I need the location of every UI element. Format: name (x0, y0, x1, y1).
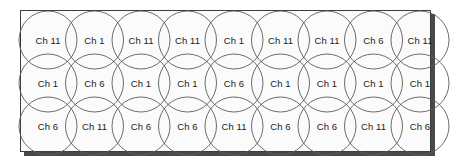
cell-channel-label: Ch 6 (317, 121, 337, 132)
cell-channel-label: Ch 1 (410, 78, 430, 89)
cell-channel-label: Ch 1 (38, 78, 58, 89)
cell-channel-label: Ch 1 (363, 78, 383, 89)
cell-channel-label: Ch 11 (82, 121, 107, 132)
cell-channel-label: Ch 6 (131, 121, 151, 132)
cell-channel-label: Ch 11 (361, 121, 386, 132)
cell-channel-label: Ch 6 (84, 78, 104, 89)
cell-channel-label: Ch 1 (317, 78, 337, 89)
cell-channel-label: Ch 11 (175, 35, 200, 46)
cell-channel-label: Ch 11 (407, 35, 432, 46)
cell-channel-label: Ch 1 (84, 35, 104, 46)
cell-channel-label: Ch 6 (410, 121, 430, 132)
cell-channel-label: Ch 11 (35, 35, 60, 46)
cell-channel-label: Ch 6 (177, 121, 197, 132)
cell-channel-label: Ch 11 (314, 35, 339, 46)
cell-channel-label: Ch 6 (270, 121, 290, 132)
cell-channel-label: Ch 11 (268, 35, 293, 46)
cell-channel-label: Ch 6 (224, 78, 244, 89)
cell-channel-label: Ch 6 (363, 35, 383, 46)
coverage-diagram-page: Ch 11Ch 1Ch 11Ch 11Ch 1Ch 11Ch 11Ch 6Ch … (0, 0, 453, 168)
cell-channel-label: Ch 11 (221, 121, 246, 132)
cell-channel-label: Ch 1 (224, 35, 244, 46)
cell-channel-label: Ch 1 (131, 78, 151, 89)
cell-channel-label: Ch 11 (128, 35, 153, 46)
cell-channel-label: Ch 6 (38, 121, 58, 132)
cell-channel-label: Ch 1 (270, 78, 290, 89)
cell-channel-label: Ch 1 (177, 78, 197, 89)
